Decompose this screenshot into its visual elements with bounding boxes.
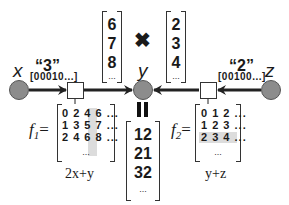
- factor-formula-f1: 2x+y: [65, 167, 94, 181]
- equals-icon: [137, 102, 141, 117]
- factor-table-ellipsis: ...: [195, 148, 241, 157]
- factor-node-f1[interactable]: [67, 82, 84, 99]
- variable-label-x: x: [13, 61, 23, 80]
- factor-table-row: 0 1 2 ...: [201, 108, 247, 119]
- factor-table-row: 2 3 4 ...: [201, 132, 247, 143]
- factor-table-row: 1 2 3 ...: [201, 120, 247, 131]
- evidence-onehot-x: [00010...]: [30, 72, 78, 82]
- evidence-onehot-z: [00100...]: [218, 72, 266, 82]
- message-value: 8: [102, 53, 122, 72]
- factor-formula-f2: y+z: [205, 167, 226, 181]
- belief-value: 12: [126, 125, 160, 144]
- factor-label-f2: f2=: [171, 121, 191, 144]
- belief-ellipsis: ...: [126, 185, 160, 194]
- message-vector-f2-to-y: 2 3 4 ...: [166, 11, 186, 83]
- factor-table-row: 2 4 6 8 ...: [62, 132, 119, 143]
- variable-node-x[interactable]: [9, 80, 29, 100]
- factor-table-row: 1 3 5 7 ...: [62, 120, 119, 131]
- belief-value: 21: [126, 144, 160, 163]
- message-vector-f1-to-y: 6 7 8 ...: [102, 11, 122, 83]
- belief-value: 32: [126, 163, 160, 182]
- factor-node-f2[interactable]: [200, 82, 217, 99]
- variable-node-y[interactable]: [133, 80, 153, 100]
- multiply-icon: ✖: [134, 30, 151, 50]
- message-value: 2: [166, 15, 186, 34]
- message-value: 6: [102, 15, 122, 34]
- factor-table-ellipsis: ...: [57, 148, 115, 157]
- equals-icon: [144, 102, 148, 117]
- message-value: 3: [166, 34, 186, 53]
- variable-label-y: y: [138, 61, 148, 80]
- variable-node-z[interactable]: [261, 80, 281, 100]
- factor-label-f1: f1=: [29, 121, 49, 144]
- message-value: 7: [102, 34, 122, 53]
- belief-vector-y: 12 21 32 ...: [126, 121, 160, 201]
- factor-table-f2: 0 1 2 ... 1 2 3 ... 2 3 4 ... ...: [195, 104, 241, 162]
- factor-table-f1: 0 2 4 6 ... 1 3 5 7 ... 2 4 6 8 ... ...: [57, 104, 115, 162]
- factor-table-row: 0 2 4 6 ...: [62, 108, 119, 119]
- message-ellipsis: ...: [166, 72, 186, 81]
- message-value: 4: [166, 53, 186, 72]
- variable-label-z: z: [265, 61, 275, 80]
- message-ellipsis: ...: [102, 72, 122, 81]
